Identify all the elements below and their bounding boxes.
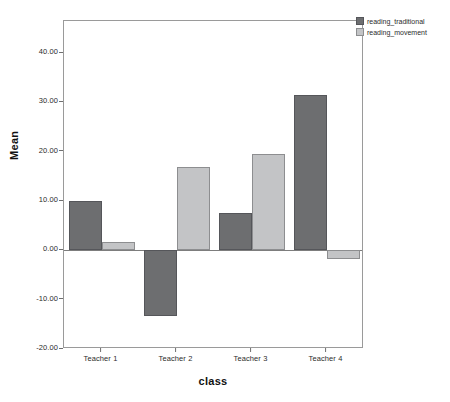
x-tick-teacher-2: Teacher 2 (159, 348, 193, 363)
y-tick-label: -10.00 (36, 293, 58, 305)
y-tick-label: 20.00 (39, 145, 58, 157)
x-axis: Teacher 1Teacher 2Teacher 3Teacher 4 (0, 348, 450, 378)
x-tick-teacher-1: Teacher 1 (84, 348, 118, 363)
bar-teacher-4-reading_traditional (294, 95, 327, 250)
x-tick-label: Teacher 2 (159, 354, 193, 363)
x-tick-label: Teacher 3 (234, 354, 268, 363)
zero-line (64, 250, 362, 251)
bar-teacher-1-reading_movement (102, 242, 135, 250)
legend-item-reading_traditional: reading_traditional (356, 16, 448, 26)
legend-label: reading_traditional (367, 18, 425, 25)
x-tick-mark (250, 348, 251, 352)
y-tick-label: 40.00 (39, 46, 58, 58)
x-tick-label: Teacher 1 (84, 354, 118, 363)
legend-item-reading_movement: reading_movement (356, 27, 448, 37)
y-axis: 40.0030.0020.0010.000.00-10.00-20.00 (0, 0, 63, 402)
plot-inner (64, 21, 362, 347)
bar-teacher-1-reading_traditional (69, 201, 102, 250)
bar-teacher-2-reading_traditional (144, 250, 177, 316)
y-tick-label: 30.00 (39, 95, 58, 107)
legend-label: reading_movement (367, 29, 427, 36)
legend-swatch-dark-icon (356, 17, 364, 25)
x-tick-mark (100, 348, 101, 352)
x-tick-label: Teacher 4 (309, 354, 343, 363)
legend-swatch-light-icon (356, 28, 364, 36)
bar-teacher-2-reading_movement (177, 167, 210, 250)
x-tick-mark (175, 348, 176, 352)
y-tick-label: 0.00 (43, 243, 58, 255)
bar-teacher-3-reading_traditional (219, 213, 252, 250)
y-tick-label: 10.00 (39, 194, 58, 206)
x-axis-title: class (63, 375, 363, 387)
bar-teacher-4-reading_movement (327, 250, 360, 259)
plot-area (63, 20, 363, 348)
x-tick-teacher-3: Teacher 3 (234, 348, 268, 363)
x-tick-mark (325, 348, 326, 352)
x-tick-teacher-4: Teacher 4 (309, 348, 343, 363)
bar-teacher-3-reading_movement (252, 154, 285, 251)
bar-chart: Mean 40.0030.0020.0010.000.00-10.00-20.0… (0, 0, 450, 402)
chart-legend: reading_traditionalreading_movement (356, 16, 448, 38)
